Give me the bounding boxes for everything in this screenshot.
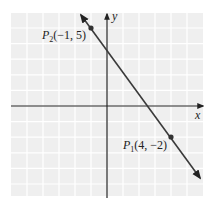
point-p2	[88, 25, 93, 30]
point-p2-label: P2(−1, 5)	[41, 28, 86, 44]
x-axis-label: x	[194, 108, 201, 122]
point-p1	[168, 134, 173, 139]
y-axis-label: y	[111, 9, 118, 23]
coordinate-plane-chart: x y P2(−1, 5) P1(4, −2)	[0, 0, 211, 206]
point-p1-label: P1(4, −2)	[122, 138, 167, 154]
